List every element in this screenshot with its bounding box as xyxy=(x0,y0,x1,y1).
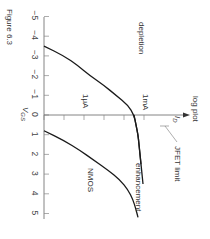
vgs-tick-label: 5 xyxy=(30,211,40,216)
ma-label: 1mA xyxy=(141,94,150,111)
vgs-axis-label: VGS xyxy=(20,107,30,121)
vgs-tick-label: −3 xyxy=(30,50,40,60)
vgs-tick-label: 0 xyxy=(30,112,40,117)
id-label-sub: D xyxy=(172,118,178,123)
vgs-tick-label: −1 xyxy=(30,89,40,99)
id-axis-label: ID xyxy=(172,116,182,123)
log-plot-label: log plot xyxy=(191,96,200,123)
ua-label: 1μA xyxy=(81,94,90,109)
vgs-tick-label: 1 xyxy=(30,132,40,137)
figure-label: Figure 6.3 xyxy=(5,9,14,46)
svg-text:VGS: VGS xyxy=(20,107,30,121)
vgs-tick-label: −4 xyxy=(30,30,40,40)
vgs-ticks: −5−4−3−2−1012345 xyxy=(30,11,49,216)
id-axis-arrow xyxy=(183,113,190,118)
vgs-tick-label: −2 xyxy=(30,70,40,80)
svg-text:ID: ID xyxy=(172,116,182,123)
vgs-tick-label: −5 xyxy=(30,11,40,21)
id-ticks xyxy=(44,115,144,120)
depletion-curve xyxy=(44,46,141,164)
nmos-label: NMOS xyxy=(86,168,95,192)
jfet-limit-label: JFET limit xyxy=(173,146,182,182)
vgs-label-sub: GS xyxy=(20,112,26,121)
chart: Figure 6.3 −5−4−3−2−1012345 depletion en… xyxy=(0,0,210,239)
vgs-tick-label: 4 xyxy=(30,191,40,196)
depletion-label: depletion xyxy=(137,22,146,54)
jfet-leader-line xyxy=(165,126,177,142)
enhancement-label: enhancement xyxy=(134,163,143,212)
vgs-tick-label: 3 xyxy=(30,171,40,176)
vgs-tick-label: 2 xyxy=(30,151,40,156)
